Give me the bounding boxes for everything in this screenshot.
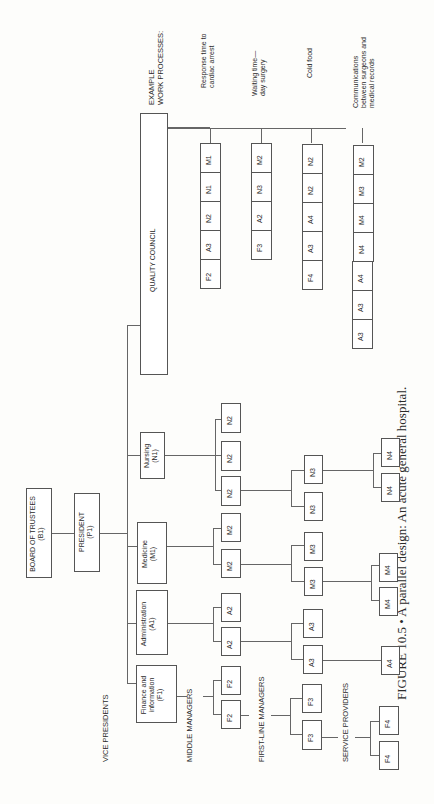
connector [100,533,127,534]
service-provider-box: F4 [379,706,399,735]
vp-finance-box: Finance and information (F1) [136,665,177,723]
level-label-first-line-managers: FIRST-LINE MANAGERS [258,677,267,762]
service-provider-box: A4 [381,646,400,675]
president-box: PRESIDENT (P1) [74,493,100,572]
process-label: Response time to cardiac arrest [200,34,216,88]
vp-code: (A1) [148,595,156,653]
connector [52,533,74,534]
first-line-manager-box: A3 [303,645,323,674]
connector [127,325,140,326]
service-provider-box: F4 [379,741,399,770]
vp-title-line1: Finance and [140,670,148,720]
first-line-manager-box: M3 [304,567,323,596]
board-title: BOARD OF TRUSTEES [29,493,37,575]
middle-manager-box: A2 [221,627,241,656]
service-provider-box: N4 [381,438,400,467]
vp-code: (M1) [149,530,157,578]
vp-administration-box: Administration (A1) [136,590,168,655]
service-provider-box: N4 [381,473,400,502]
middle-manager-box: F2 [221,700,241,729]
process-label: Waiting time— day surgery [251,51,267,96]
level-label-middle-managers: MIDDLE MANAGERS [186,689,195,762]
service-provider-box: M4 [379,587,398,616]
board-of-trustees-box: BOARD OF TRUSTEES (B1) [26,488,52,578]
vp-title: Medicine [141,530,149,578]
service-provider-box: M4 [379,553,398,582]
president-code: (P1) [86,504,94,560]
process-label: Cold food [306,48,314,78]
board-code: (B1) [37,493,45,575]
first-line-manager-box: F3 [302,684,322,713]
level-label-service-providers: SERVICE PROVIDERS [342,683,351,762]
first-line-manager-box: N3 [304,455,323,484]
connector [165,455,215,456]
first-line-manager-box: M3 [304,532,323,561]
middle-manager-box: M2 [221,549,241,578]
process-label: Communications between surgeons and medi… [352,37,376,108]
first-line-manager-box: F3 [302,720,322,750]
vp-title: Nursing [143,437,151,475]
work-processes-header: EXAMPLE WORK PROCESSES: [148,31,165,105]
quality-council-title: QUALITY COUNCIL [149,229,157,292]
first-line-manager-box: A3 [303,609,323,638]
vp-title: Administration [140,595,148,653]
vp-title-line2: information [148,670,156,720]
level-label-vice-presidents: VICE PRESIDENTS [102,694,111,762]
middle-manager-box: F2 [221,666,241,695]
vp-code: (N1) [151,437,159,475]
vp-spine [127,325,128,683]
vp-nursing-box: Nursing (N1) [140,432,165,479]
vp-medicine-box: Medicine (M1) [137,522,167,584]
president-title: PRESIDENT [78,504,86,560]
middle-manager-box: N2 [221,476,241,506]
connector [127,455,140,456]
middle-manager-box: A2 [221,593,241,622]
vp-code: (F1) [156,670,164,720]
middle-manager-box: N2 [221,441,241,471]
middle-manager-box: N2 [221,403,241,433]
middle-manager-box: M2 [221,513,241,542]
quality-council-box: QUALITY COUNCIL [140,113,168,375]
first-line-manager-box: N3 [304,492,323,521]
